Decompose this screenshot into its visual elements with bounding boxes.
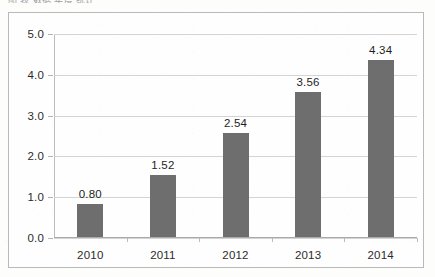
- x-axis-tick-label: 2012: [222, 249, 248, 261]
- gridline: [54, 75, 417, 76]
- bar[interactable]: [150, 175, 176, 237]
- x-axis-tick: [272, 238, 273, 242]
- x-axis-tick: [199, 238, 200, 242]
- y-axis-tick: [48, 156, 53, 157]
- y-axis-tick-label: 5.0: [27, 28, 44, 40]
- x-axis-tick: [344, 238, 345, 242]
- y-axis-tick-label: 4.0: [27, 69, 44, 81]
- bar[interactable]: [77, 204, 103, 237]
- x-axis-tick-label: 2014: [367, 249, 393, 261]
- bar[interactable]: [223, 133, 249, 237]
- x-axis-tick: [127, 238, 128, 242]
- bar[interactable]: [295, 92, 321, 237]
- bar-value-label: 1.52: [151, 159, 174, 171]
- y-axis-tick-label: 2.0: [27, 150, 44, 162]
- y-axis-tick: [48, 34, 53, 35]
- y-axis-tick: [48, 116, 53, 117]
- bar-value-label: 4.34: [369, 44, 392, 56]
- y-axis-tick-label: 0.0: [27, 232, 44, 244]
- plot-area: 0.01.02.03.04.05.0 0.801.522.543.564.34 …: [54, 34, 417, 238]
- y-axis-tick-label: 1.0: [27, 191, 44, 203]
- bar-value-label: 2.54: [224, 117, 247, 129]
- chart-frame: 0.01.02.03.04.05.0 0.801.522.543.564.34 …: [8, 12, 424, 268]
- clipped-caption-fragment: 图 表 数据 年度 统计: [8, 0, 308, 3]
- bar-value-label: 3.56: [297, 76, 320, 88]
- y-axis-tick: [48, 238, 53, 239]
- y-axis-tick-label: 3.0: [27, 110, 44, 122]
- x-axis-tick: [417, 238, 418, 242]
- y-axis-line: [54, 34, 55, 238]
- bar[interactable]: [368, 60, 394, 237]
- y-axis-tick: [48, 197, 53, 198]
- gridline: [54, 238, 417, 239]
- gridline: [54, 34, 417, 35]
- scanned-page: 图 表 数据 年度 统计 0.01.02.03.04.05.0 0.801.52…: [0, 0, 435, 277]
- y-axis-tick: [48, 75, 53, 76]
- x-axis-tick-label: 2010: [77, 249, 103, 261]
- x-axis-tick-label: 2013: [295, 249, 321, 261]
- x-axis-tick-label: 2011: [150, 249, 176, 261]
- bar-value-label: 0.80: [79, 188, 102, 200]
